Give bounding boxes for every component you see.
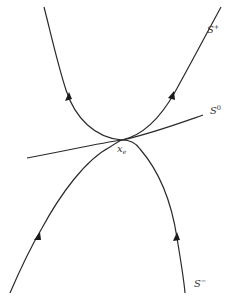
arrow-lower-right-icon (173, 232, 180, 241)
center-manifold-s0 (27, 115, 203, 158)
lower-left-orbit (10, 140, 122, 293)
label-s-zero: S0 (210, 104, 221, 116)
label-equilibrium-xe: xe (117, 143, 127, 155)
arrow-up-left-icon (65, 92, 72, 101)
label-s-plus: S+ (207, 23, 219, 35)
phase-portrait: S+ S0 S− xe (0, 0, 229, 298)
label-s-minus: S− (194, 277, 206, 289)
arrow-up-right-icon (168, 91, 175, 100)
stable-manifold-s-minus (122, 140, 185, 293)
upper-left-orbit (44, 7, 122, 140)
arrow-lower-left-icon (34, 232, 41, 240)
